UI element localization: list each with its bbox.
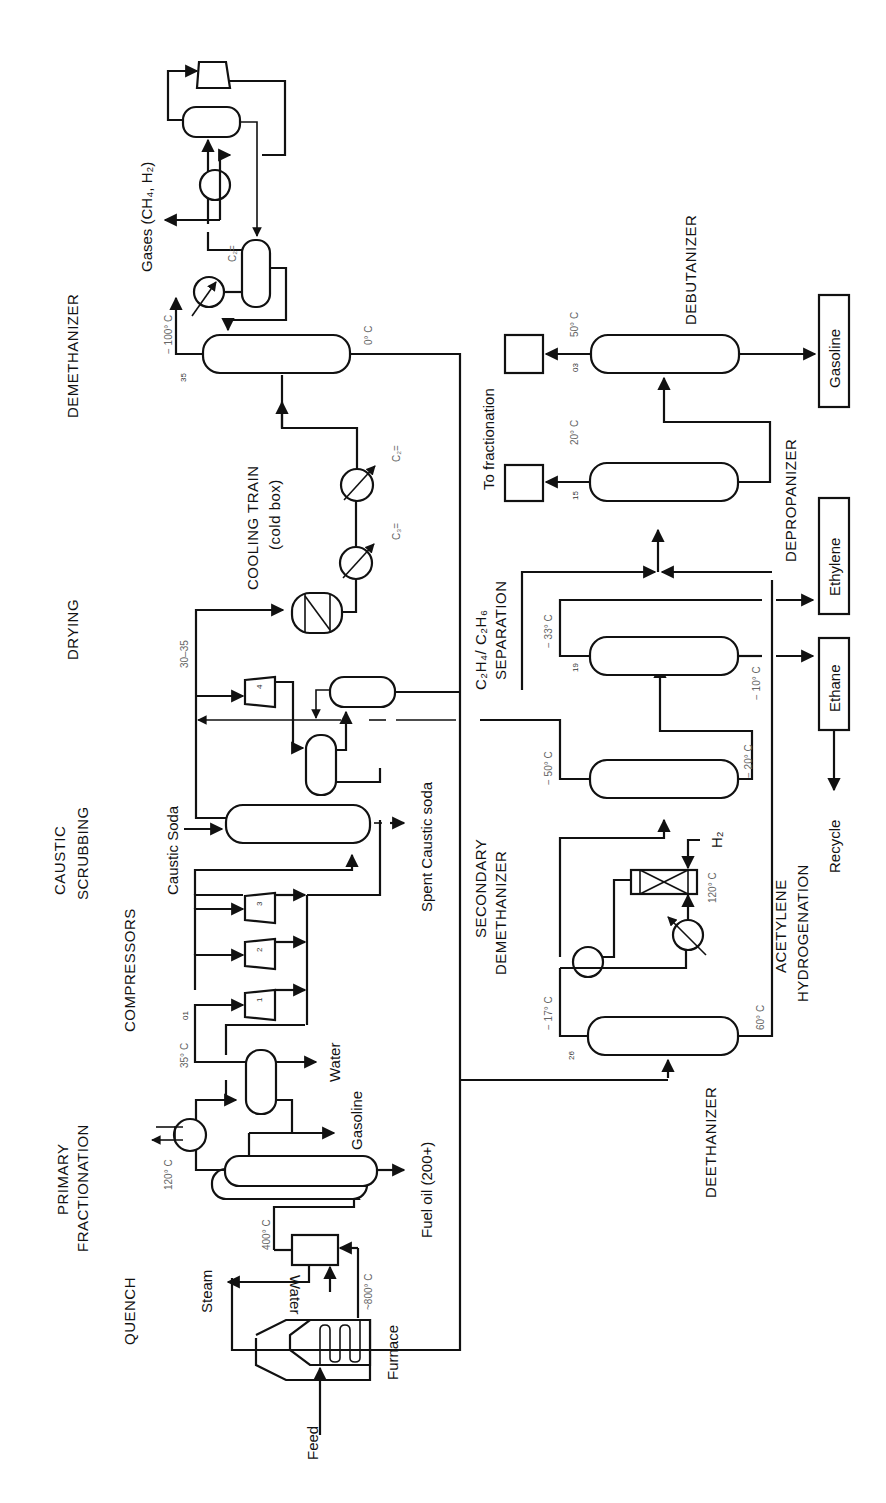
dryer-drum [306,735,336,795]
temp-c2sep-bottom: − 10° C [751,666,762,700]
stream-furnace: Furnace [384,1325,401,1380]
pressure-deeth: 26 [567,1051,576,1060]
temp-deprop-top: 20° C [569,420,580,445]
svg-text:Ethylene: Ethylene [826,538,843,596]
label-hydrogenation: HYDROGENATION [794,864,811,1002]
debutanizer [505,335,815,373]
temp-secdem-top: − 50° C [543,751,554,785]
stream-h2: H₂ [708,831,725,848]
label-caustic: CAUSTIC [51,826,68,895]
label-deethanizer: DEETHANIZER [702,1087,719,1198]
stream-water-quench: Water [287,1275,304,1314]
pressure-drying: 30–35 [179,640,190,668]
label-primary: PRIMARY [54,1143,71,1215]
dryer-reflux-drum [330,677,395,707]
label-cooling-train: COOLING TRAIN [244,465,261,590]
stream-water-sep: Water [326,1043,343,1082]
ethylene-plant-flow-diagram: QUENCH PRIMARY FRACTIONATION COMPRESSORS… [0,0,886,1503]
label-fractionation: FRACTIONATION [74,1124,91,1252]
svg-text:Ethane: Ethane [826,664,843,712]
label-cold-box: (cold box) [266,479,283,550]
reflux-drum [242,240,270,307]
cooling-train [282,402,375,633]
acetylene-hydrogenation [560,820,706,977]
drying-unit: 4 [196,610,460,795]
stream-fuel-oil: Fuel oil (200+) [418,1142,435,1238]
h2-feed-line [688,840,700,868]
primary-condenser [174,1119,206,1151]
feed-effluent-exchanger [573,947,603,977]
svg-text:2: 2 [255,947,264,952]
label-secondary: SECONDARY [472,839,489,938]
label-scrubbing: SCRUBBING [74,806,91,900]
temp-deeth-bottom: 60° C [755,1005,766,1030]
expander-drum [183,107,240,137]
compressor-train: 1 2 3 [195,820,380,1025]
label-demethanizer: DEMETHANIZER [64,294,81,418]
stream-steam: Steam [198,1270,215,1313]
temp-hydro: 120° C [707,872,718,903]
svg-text:1: 1 [255,997,264,1002]
stream-caustic-soda: Caustic Soda [164,805,181,895]
temp-demeth-bottom: 0° C [363,325,374,345]
temp-quench-out: 400° C [261,1219,272,1250]
svg-text:3: 3 [255,901,264,906]
label-drying: DRYING [64,599,81,660]
to-fractionation-box-1 [505,465,543,501]
label-compressors: COMPRESSORS [121,908,138,1032]
stream-feed: Feed [304,1426,321,1460]
temp-c2sep-top: − 33° C [543,614,554,648]
depropanizer [505,378,770,501]
stream-gases: Gases (CH₄, H₂) [138,162,155,272]
label-debutanizer: DEBUTANIZER [682,215,699,325]
refrigerant-c2-b: C₂= [227,245,238,262]
to-fractionation-box-2 [505,335,543,373]
label-acetylene: ACETYLENE [772,879,789,973]
pressure-c2sep: 19 [571,663,580,672]
label-c2-separation-2: SEPARATION [492,581,509,680]
svg-text:Gasoline: Gasoline [826,329,843,388]
label-quench: QUENCH [121,1277,138,1345]
temp-primary-top: 120° C [163,1159,174,1190]
svg-text:4: 4 [255,684,264,689]
label-secondary-demethanizer: DEMETHANIZER [492,851,509,975]
gas-exchanger [200,170,230,200]
c2-splitter [522,530,813,690]
label-c2-separation-1: C₂H₄/ C₂H₆ [472,610,489,690]
pressure-deprop: 15 [571,491,580,500]
stream-gasoline-primary: Gasoline [348,1091,365,1150]
temp-secdem-bottom: − 20° C [743,744,754,778]
temp-debut-top: 50° C [569,312,580,337]
secondary-demethanizer [480,666,752,798]
pressure-debut: 03 [571,363,580,372]
label-depropanizer: DEPROPANIZER [782,439,799,562]
pressure-demeth: 35 [179,373,188,382]
temp-furnace-out: ~800° C [363,1273,374,1310]
quench-exchanger [292,1235,338,1265]
stream-recycle: Recycle [826,820,843,873]
preheater [673,920,703,950]
temp-demeth-top: − 100° C [163,315,174,354]
water-separator [195,1005,316,1133]
refrigerant-c3: C₃= [391,523,402,540]
refrigerant-c2-a: C₂= [391,445,402,462]
primary-fractionator [152,1100,404,1199]
temp-deeth-top: − 17° C [543,996,554,1030]
product-boxes: Ethylene Ethane Gasoline [819,295,849,790]
temp-comp-in: 35° C [179,1043,190,1068]
stream-spent-caustic: Spent Caustic soda [418,781,435,912]
pressure-comp-in: 01 [181,1011,190,1020]
stream-to-fractionation: To fractionation [480,388,497,490]
